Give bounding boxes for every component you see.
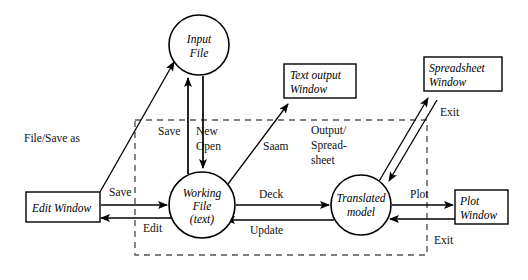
edge-label-output: Output/ [311, 124, 347, 137]
edge-label-save-lower: Save [109, 186, 131, 198]
edge-label-spread: Spread- [311, 139, 347, 152]
node-input-file-label-2: File [189, 47, 209, 59]
node-plot-window-label-2: Window [460, 209, 497, 221]
diagram-canvas: Input File Working File (text) Translate… [0, 0, 528, 280]
edge-label-file-save-as: File/Save as [24, 132, 80, 144]
edge-label-update: Update [250, 224, 283, 237]
node-spreadsheet-window-label: Spreadsheet [429, 62, 486, 75]
edge-label-sheet: sheet [311, 154, 335, 166]
edge-label-plot: Plot [410, 188, 429, 200]
node-text-output-window-label-2: Window [290, 83, 327, 95]
node-translated-model-label-2: model [347, 206, 375, 218]
node-working-file-label: Working [183, 187, 222, 200]
node-text-output-window-label: Text output [290, 69, 342, 82]
edge-label-exit-top: Exit [440, 106, 460, 118]
node-input-file[interactable] [169, 15, 229, 75]
dataflow-diagram: Input File Working File (text) Translate… [0, 0, 528, 280]
node-input-file-label: Input [186, 33, 212, 46]
edge-exit-spreadsheet [389, 100, 437, 181]
edge-label-edit: Edit [143, 222, 163, 234]
node-working-file-label-3: (text) [190, 213, 214, 226]
edge-label-exit-bottom: Exit [434, 234, 454, 246]
node-edit-window-label: Edit Window [31, 202, 91, 214]
node-spreadsheet-window-label-2: Window [429, 76, 466, 88]
node-working-file-label-2: File [192, 200, 212, 212]
node-translated-model-label: Translated [336, 192, 385, 204]
node-plot-window-label: Plot [459, 195, 480, 207]
edge-label-deck: Deck [259, 188, 284, 200]
edge-label-open: Open [196, 140, 221, 153]
edge-output-spreadsheet [378, 98, 428, 183]
edge-label-saam: Saam [263, 140, 289, 152]
edge-label-save-upper: Save [158, 125, 180, 137]
edge-label-new: New [196, 125, 218, 137]
